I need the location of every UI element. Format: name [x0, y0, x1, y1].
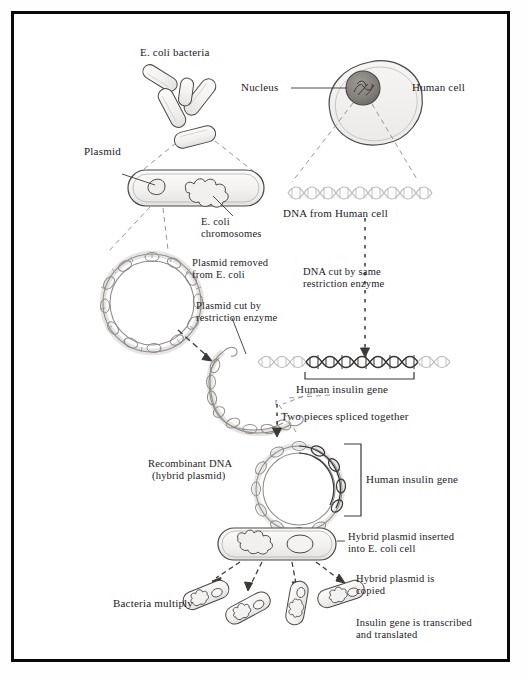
- recombinant-plasmid: [252, 442, 362, 537]
- dna-insulin-gene-segment: [306, 355, 418, 369]
- label-ecoli-bacteria: E. coli bacteria: [140, 46, 209, 59]
- label-plasmid-removed-line2: from E. coli: [192, 269, 245, 281]
- bracket-insulin-gene-dna: [305, 372, 414, 379]
- arrows-bacteria-multiply: [212, 562, 345, 591]
- label-human-insulin-gene-dna: Human insulin gene: [296, 383, 388, 396]
- dna-cut-strand: [258, 355, 450, 379]
- bracket-insulin-gene-plasmid: [344, 444, 361, 516]
- label-hybrid-inserted-line2: into E. coli cell: [348, 543, 416, 555]
- plasmid-in-cell: [148, 179, 165, 194]
- ecoli-single-rod: [173, 124, 218, 150]
- dna-human-strand: [288, 187, 432, 199]
- label-plasmid: Plasmid: [84, 145, 121, 158]
- label-recombinant-dna-line1: Recombinant DNA: [148, 458, 232, 470]
- label-human-insulin-gene-plasmid: Human insulin gene: [366, 473, 458, 486]
- label-hybrid-copied-line2: copied: [356, 585, 385, 597]
- diagram-page: E. coli bacteria Nucleus Human cell Plas…: [0, 0, 528, 679]
- label-plasmid-cut-line1: Plasmid cut by: [196, 300, 261, 312]
- label-bacteria-multiply: Bacteria multiply: [113, 597, 193, 610]
- diagram-artwork: [0, 0, 528, 679]
- label-hybrid-inserted-line1: Hybrid plasmid inserted: [348, 531, 454, 543]
- label-insulin-transcribed-line1: Insulin gene is transcribed: [356, 617, 472, 629]
- label-plasmid-removed-line1: Plasmid removed: [192, 257, 268, 269]
- label-ecoli-chromosomes-line2: chromosomes: [201, 228, 262, 240]
- diagram-stage: E. coli bacteria Nucleus Human cell Plas…: [0, 0, 528, 679]
- hybrid-plasmid-in-host: [287, 535, 313, 553]
- dna-flank-left: [258, 356, 306, 368]
- arrow-plasmid-cut: [178, 330, 212, 361]
- ecoli-cell-enlarged: [128, 170, 264, 207]
- label-dna-cut-line1: DNA cut by same: [303, 266, 381, 278]
- label-insulin-transcribed-line2: and translated: [356, 629, 417, 641]
- label-human-cell: Human cell: [412, 81, 465, 94]
- ecoli-cell-with-hybrid: [218, 528, 336, 560]
- label-plasmid-cut-line2: restriction enzyme: [196, 312, 277, 324]
- label-dna-from-human-cell: DNA from Human cell: [283, 207, 388, 220]
- ecoli-bacteria-cluster: [140, 62, 219, 150]
- dna-flank-right: [418, 356, 450, 368]
- label-two-pieces-spliced: Two pieces spliced together: [281, 410, 409, 423]
- label-recombinant-dna-line2: (hybrid plasmid): [152, 470, 225, 482]
- label-nucleus: Nucleus: [241, 81, 278, 94]
- nucleus-shape: [346, 71, 380, 105]
- human-cell: [329, 61, 422, 145]
- daughter-bacteria: [180, 578, 366, 628]
- label-ecoli-chromosomes-line1: E. coli: [201, 216, 230, 228]
- label-dna-cut-line2: restriction enzyme: [303, 278, 384, 290]
- label-hybrid-copied-line1: Hybrid plasmid is: [356, 573, 435, 585]
- magnify-lines-plasmid: [108, 207, 168, 252]
